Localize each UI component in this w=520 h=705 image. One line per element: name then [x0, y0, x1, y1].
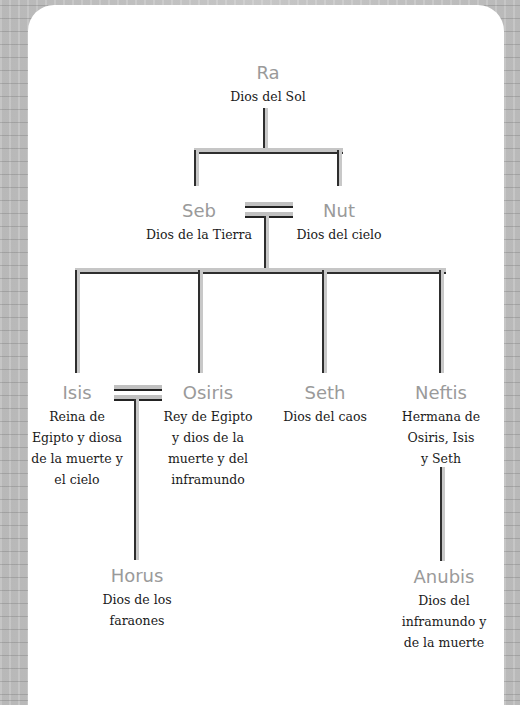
node-name: Seth [283, 382, 367, 404]
node-anubis: Anubis Dios del inframundo y de la muert… [402, 566, 487, 653]
node-name: Ra [230, 62, 305, 84]
node-name: Isis [31, 382, 123, 404]
node-horus: Horus Dios de los faraones [102, 565, 171, 631]
node-description: Reina de Egipto y diosa de la muerte y e… [31, 406, 123, 490]
connector-to-neftis [439, 270, 444, 373]
node-nut: Nut Dios del cielo [296, 200, 381, 245]
node-description: Dios del Sol [230, 86, 305, 107]
connector-to-seb [194, 150, 199, 186]
node-ra: Ra Dios del Sol [230, 62, 305, 107]
node-name: Seb [146, 200, 252, 222]
connector-ra-down [263, 108, 268, 152]
node-description: Dios del caos [283, 406, 367, 427]
connector-to-osiris [198, 270, 203, 373]
connector-children-bar [75, 268, 446, 274]
connector-to-horus [134, 399, 139, 560]
node-name: Horus [102, 565, 171, 587]
node-seb: Seb Dios de la Tierra [146, 200, 252, 245]
connector-to-nut [337, 150, 342, 186]
node-name: Nut [296, 200, 381, 222]
node-name: Neftis [402, 382, 480, 404]
node-name: Osiris [164, 382, 253, 404]
node-osiris: Osiris Rey de Egipto y dios de la muerte… [164, 382, 253, 490]
marriage-symbol-seb-nut-bottom [245, 212, 293, 218]
connector-to-anubis [440, 467, 445, 561]
node-name: Anubis [402, 566, 487, 588]
node-description: Rey de Egipto y dios de la muerte y del … [164, 406, 253, 490]
node-description: Dios del inframundo y de la muerte [402, 590, 487, 653]
connector-to-seth [322, 270, 327, 373]
node-description: Dios de los faraones [102, 589, 171, 631]
node-isis: Isis Reina de Egipto y diosa de la muert… [31, 382, 123, 490]
node-description: Dios del cielo [296, 224, 381, 245]
node-neftis: Neftis Hermana de Osiris, Isis y Seth [402, 382, 480, 469]
connector-seb-nut-down [264, 216, 269, 272]
connector-to-isis [75, 270, 80, 373]
node-description: Dios de la Tierra [146, 224, 252, 245]
connector-seb-nut-bar [194, 148, 343, 154]
marriage-symbol-seb-nut-top [245, 202, 293, 208]
node-description: Hermana de Osiris, Isis y Seth [402, 406, 480, 469]
node-seth: Seth Dios del caos [283, 382, 367, 427]
